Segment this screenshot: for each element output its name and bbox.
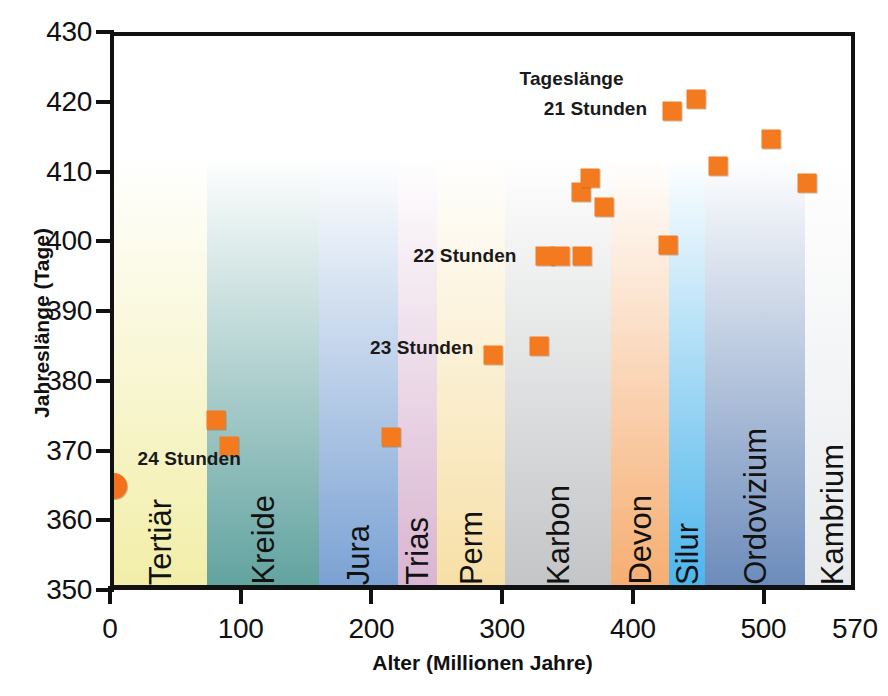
period-band: Ordovizium [705,36,806,585]
x-tick-label: 100 [181,613,301,645]
period-band: Tertiär [114,36,207,585]
x-tick-mark [500,586,504,604]
data-point [382,428,401,447]
period-band-label: Ordovizium [740,428,771,585]
chart-annotation: 21 Stunden [544,98,647,120]
data-point [550,246,569,265]
period-band-label: Kreide [247,495,278,585]
x-tick-label: 200 [311,613,431,645]
period-band-label: Karbon [542,485,573,585]
data-point [708,157,727,176]
period-band-label: Devon [625,495,656,585]
period-band-label: Perm [455,511,486,585]
y-tick-label: 420 [2,86,92,118]
period-band: Jura [319,36,397,585]
chart-annotation: 24 Stunden [138,448,241,470]
data-point [595,197,614,216]
y-tick-label: 430 [2,16,92,48]
period-band: Kreide [207,36,319,585]
data-point [797,174,816,193]
period-band: Kambrium [805,36,851,585]
chart-annotation: 22 Stunden [413,245,516,267]
x-tick-mark [762,586,766,604]
period-band-label: Kambrium [817,444,848,585]
x-tick-label: 400 [573,613,693,645]
x-tick-label: 570 [795,613,888,645]
period-band-label: Trias [402,517,433,585]
period-band-label: Silur [672,523,703,585]
y-tick-label: 360 [2,504,92,536]
data-point [686,89,705,108]
chart-annotation: 23 Stunden [370,337,473,359]
period-band-label: Tertiär [145,499,176,585]
data-point [529,337,548,356]
chart-figure: 350360370380390400410420430 Jahreslänge … [0,0,888,696]
x-axis-title: Alter (Millionen Jahre) [110,651,855,675]
data-point [580,168,599,187]
data-point [663,101,682,120]
data-point [572,246,591,265]
period-band: Trias [398,36,437,585]
plot-inner: TertiärKreideJuraTriasPermKarbonDevonSil… [114,36,851,585]
data-point [659,236,678,255]
x-tick-label: 0 [50,613,170,645]
data-point [762,129,781,148]
period-band: Perm [437,36,505,585]
period-band-label: Jura [343,525,374,585]
x-tick-mark [108,586,112,604]
x-tick-mark [631,586,635,604]
x-tick-label: 300 [442,613,562,645]
y-tick-label: 350 [2,574,92,606]
data-point [484,345,503,364]
chart-annotation: Tageslänge [520,68,624,90]
data-point [206,410,225,429]
plot-area: TertiärKreideJuraTriasPermKarbonDevonSil… [110,32,855,590]
x-tick-mark [239,586,243,604]
y-axis-title: Jahreslänge (Tage) [30,163,54,483]
x-tick-mark [369,586,373,604]
